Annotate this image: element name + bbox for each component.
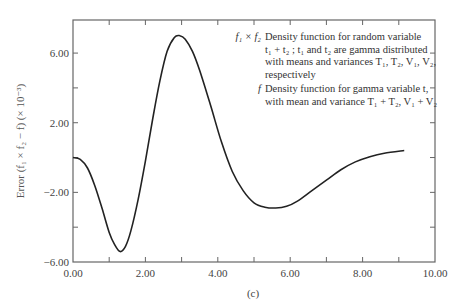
- legend-text-line: with mean and variance T₁ + T₂, V₁ + V₂: [265, 96, 437, 107]
- error-chart: 0.002.004.006.008.0010.00 −6.00−2.002.00…: [0, 0, 470, 308]
- figure-caption: (c): [247, 287, 260, 300]
- legend-text-line: Density function for random variable: [265, 31, 422, 42]
- y-tick-label: 2.00: [50, 117, 70, 129]
- y-tick-label: 6.00: [50, 47, 70, 59]
- x-tick-labels: 0.002.004.006.008.0010.00: [63, 267, 448, 279]
- y-tick-labels: −6.00−2.002.006.00: [44, 47, 70, 268]
- y-tick-label: −2.00: [44, 186, 70, 198]
- legend-text-line: t₁ + t₂ ; t₁ and t₂ are gamma distribute…: [265, 44, 428, 55]
- legend-text-line: with means and variances T₁, T₂, V₁, V₂,: [265, 56, 436, 67]
- legend-text-line: respectively: [265, 69, 316, 80]
- y-axis-label: Error (f₁ × f₂ − f) (× 10⁻³): [14, 83, 27, 198]
- x-tick-label: 8.00: [353, 267, 373, 279]
- legend-text-line: Density function for gamma variable t,: [265, 83, 428, 94]
- x-tick-label: 0.00: [63, 267, 83, 279]
- x-tick-label: 4.00: [208, 267, 228, 279]
- x-tick-label: 6.00: [281, 267, 301, 279]
- legend-symbol: f₁ × f₂: [236, 31, 262, 42]
- x-tick-label: 10.00: [423, 267, 448, 279]
- legend: f₁ × f₂Density function for random varia…: [236, 31, 438, 107]
- legend-symbol: f: [258, 83, 263, 94]
- y-tick-label: −6.00: [44, 256, 70, 268]
- x-tick-label: 2.00: [136, 267, 156, 279]
- error-curve: [73, 35, 404, 251]
